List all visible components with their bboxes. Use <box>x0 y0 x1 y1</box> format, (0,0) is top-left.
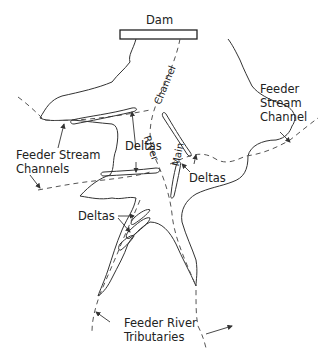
right-feeder-channel <box>170 118 318 164</box>
dam-structure <box>120 30 197 39</box>
arrow-feeder-stream-left-1 <box>58 124 64 148</box>
arrow-feeder-stream-left-2 <box>30 175 40 188</box>
label-tributaries-2: Tributaries <box>124 331 184 344</box>
lower-right-tributary <box>196 290 206 348</box>
arrow-tributary-left <box>96 312 110 322</box>
label-feeder-right-3: Channel <box>260 111 307 124</box>
label-deltas-lower: Deltas <box>78 210 115 223</box>
delta-right-side <box>171 162 181 198</box>
label-dam: Dam <box>146 14 173 27</box>
label-feeder-right-2: Stream <box>260 97 302 110</box>
arrow-deltas-right-2 <box>194 155 196 164</box>
label-deltas-right: Deltas <box>189 172 226 185</box>
reservoir-diagram <box>0 0 321 360</box>
label-tributaries-1: Feeder River <box>124 317 197 330</box>
label-feeder-left-1: Feeder Stream <box>16 149 101 162</box>
delta-upper-left <box>71 108 137 124</box>
label-feeder-right-1: Feeder <box>260 83 299 96</box>
arrow-deltas-lower-2 <box>118 218 130 232</box>
arrow-tributary-right <box>206 326 232 334</box>
label-feeder-left-2: Channels <box>16 163 69 176</box>
